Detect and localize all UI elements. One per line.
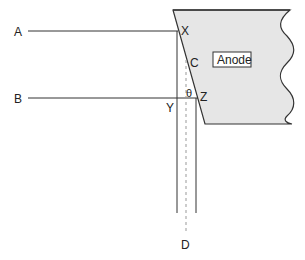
anode-label: Anode <box>217 53 252 67</box>
label-theta: θ <box>186 87 192 99</box>
label-x: X <box>181 24 189 38</box>
anode-diagram: A B X C θ Z Y D Anode <box>0 0 305 260</box>
label-d: D <box>181 238 190 252</box>
label-y: Y <box>166 101 174 115</box>
label-z: Z <box>200 90 207 104</box>
label-c: C <box>190 56 199 70</box>
label-b: B <box>14 92 22 106</box>
label-a: A <box>14 25 22 39</box>
